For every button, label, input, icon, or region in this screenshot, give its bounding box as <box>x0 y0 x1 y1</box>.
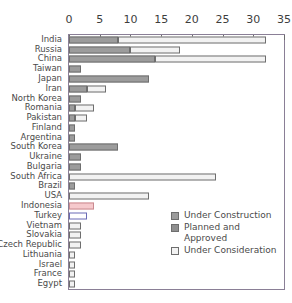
x-tick-label-35: 35 <box>277 13 291 26</box>
category-label-russia: Russia <box>35 44 62 53</box>
bar-row <box>69 173 284 180</box>
category-label-argentina: Argentina <box>21 132 62 141</box>
category-label-indonesia: Indonesia <box>21 201 62 210</box>
bar-segment <box>69 212 87 219</box>
x-tick-label-15: 15 <box>154 13 168 26</box>
legend-item-pa: Planned and Approved <box>171 222 281 244</box>
bar-row <box>69 56 284 63</box>
x-axis-tick-labels: 05101520253035 <box>0 13 292 31</box>
legend-label: Under Consideration <box>184 245 277 255</box>
legend-item-uc: Under Construction <box>171 210 281 221</box>
category-label-egypt: Egypt <box>37 279 62 288</box>
bar-row <box>69 144 284 151</box>
bar-row <box>69 95 284 102</box>
bar-segment <box>87 85 105 92</box>
bar-segment <box>69 222 81 229</box>
bar-segment <box>69 193 149 200</box>
bar-row <box>69 105 284 112</box>
bar-segment <box>69 134 75 141</box>
category-label-brazil: Brazil <box>38 181 62 190</box>
x-tick-mark-35 <box>284 35 285 40</box>
bar-row <box>69 271 284 278</box>
x-tick-label-10: 10 <box>123 13 137 26</box>
x-tick-label-20: 20 <box>185 13 199 26</box>
legend-label: Under Construction <box>184 210 271 220</box>
x-tick-label-25: 25 <box>216 13 230 26</box>
category-label-japan: Japan <box>38 74 62 83</box>
bar-segment <box>69 163 81 170</box>
category-label-taiwan: Taiwan <box>33 64 62 73</box>
bar-segment <box>130 46 179 53</box>
bar-segment <box>69 95 81 102</box>
chart-legend: Under ConstructionPlanned and ApprovedUn… <box>171 210 281 257</box>
bar-segment <box>69 251 75 258</box>
bar-row <box>69 261 284 268</box>
y-axis-category-labels: IndiaRussiaChinaTaiwanJapanIranNorth Kor… <box>0 34 66 290</box>
bar-row <box>69 193 284 200</box>
bar-segment <box>69 66 81 73</box>
bar-row <box>69 75 284 82</box>
legend-swatch-icon <box>171 212 179 220</box>
x-tick-label-5: 5 <box>96 13 103 26</box>
category-label-china: China <box>38 54 62 63</box>
category-label-north-korea: North Korea <box>11 93 62 102</box>
bar-row <box>69 163 284 170</box>
category-label-israel: Israel <box>39 259 62 268</box>
bar-segment <box>69 232 81 239</box>
bar-segment <box>69 85 87 92</box>
category-label-lithuania: Lithuania <box>23 250 62 259</box>
category-label-pakistan: Pakistan <box>26 113 62 122</box>
bar-segment <box>69 124 75 131</box>
bar-segment <box>69 36 118 43</box>
legend-label: Planned and Approved <box>184 222 240 243</box>
bar-segment <box>118 36 265 43</box>
legend-swatch-icon <box>171 247 179 255</box>
bar-segment <box>69 281 75 288</box>
nuclear-reactors-bar-chart: 05101520253035 IndiaRussiaChinaTaiwanJap… <box>0 0 292 303</box>
x-tick-label-30: 30 <box>246 13 260 26</box>
bar-segment <box>69 242 81 249</box>
bar-segment <box>69 183 75 190</box>
legend-swatch-icon <box>171 224 179 232</box>
bar-row <box>69 281 284 288</box>
bar-row <box>69 85 284 92</box>
bar-segment <box>69 261 75 268</box>
category-label-czech-republic: Czech Republic <box>0 240 62 249</box>
category-label-slovakia: Slovakia <box>26 230 62 239</box>
bar-segment <box>69 271 75 278</box>
bar-row <box>69 36 284 43</box>
category-label-usa: USA <box>44 191 62 200</box>
category-label-india: India <box>41 35 62 44</box>
bar-segment <box>69 56 155 63</box>
bar-segment <box>155 56 266 63</box>
x-tick-label-0: 0 <box>66 13 73 26</box>
bar-row <box>69 154 284 161</box>
bar-row <box>69 66 284 73</box>
bar-segment <box>69 144 118 151</box>
bar-row <box>69 202 284 209</box>
category-label-south-africa: South Africa <box>10 171 62 180</box>
category-label-finland: Finland <box>32 123 62 132</box>
category-label-ukraine: Ukraine <box>29 152 62 161</box>
bar-segment <box>75 115 87 122</box>
bar-segment <box>69 173 216 180</box>
category-label-iran: Iran <box>45 83 62 92</box>
bar-row <box>69 115 284 122</box>
bar-segment <box>69 75 149 82</box>
bar-row <box>69 46 284 53</box>
bar-row <box>69 183 284 190</box>
bar-segment <box>69 154 81 161</box>
category-label-bulgaria: Bulgaria <box>27 162 62 171</box>
legend-item-ucon: Under Consideration <box>171 245 281 256</box>
bar-row <box>69 134 284 141</box>
bar-row <box>69 124 284 131</box>
bar-segment <box>69 46 130 53</box>
bar-segment <box>69 202 94 209</box>
category-label-france: France <box>34 269 62 278</box>
category-label-vietnam: Vietnam <box>27 220 62 229</box>
category-label-turkey: Turkey <box>34 210 62 219</box>
category-label-romania: Romania <box>25 103 62 112</box>
bar-segment <box>75 105 93 112</box>
category-label-south-korea: South Korea <box>10 142 62 151</box>
